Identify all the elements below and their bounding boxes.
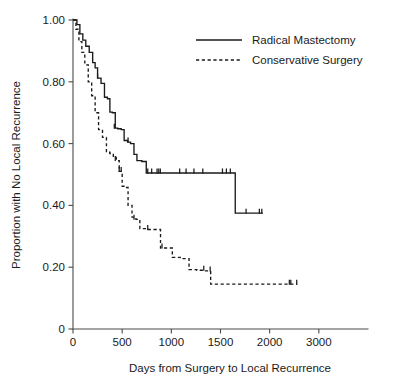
y-tick-label-0: 0 bbox=[59, 323, 65, 335]
x-axis-tick-labels: 05001000150020003000 bbox=[70, 336, 332, 348]
chart-legend: Radical MastectomyConservative Surgery bbox=[196, 34, 363, 66]
y-tick-label-5: 1.00 bbox=[43, 14, 65, 26]
x-tick-label-3: 1500 bbox=[208, 336, 234, 348]
y-tick-label-4: 0.80 bbox=[43, 76, 65, 88]
y-axis-title: Proportion with No Local Recurrence bbox=[10, 81, 22, 269]
y-tick-label-2: 0.40 bbox=[43, 199, 65, 211]
legend-label-1: Conservative Surgery bbox=[252, 54, 363, 66]
censoring-marks bbox=[98, 74, 297, 285]
x-tick-label-0: 0 bbox=[70, 336, 76, 348]
curve-radical-mastectomy bbox=[73, 20, 263, 213]
axis-tick-marks bbox=[69, 20, 319, 334]
x-tick-label-4: 2000 bbox=[257, 336, 283, 348]
x-axis-title: Days from Surgery to Local Recurrence bbox=[129, 362, 331, 374]
legend-label-0: Radical Mastectomy bbox=[252, 34, 356, 46]
x-tick-label-1: 500 bbox=[113, 336, 132, 348]
y-axis-tick-labels: 00.200.400.600.801.00 bbox=[43, 14, 65, 335]
x-tick-label-2: 1000 bbox=[159, 336, 185, 348]
y-tick-label-1: 0.20 bbox=[43, 261, 65, 273]
y-tick-label-3: 0.60 bbox=[43, 138, 65, 150]
chart-canvas: 05001000150020003000 00.200.400.600.801.… bbox=[0, 0, 398, 386]
kaplan-meier-figure: 05001000150020003000 00.200.400.600.801.… bbox=[0, 0, 398, 386]
x-tick-label-5: 3000 bbox=[306, 336, 332, 348]
